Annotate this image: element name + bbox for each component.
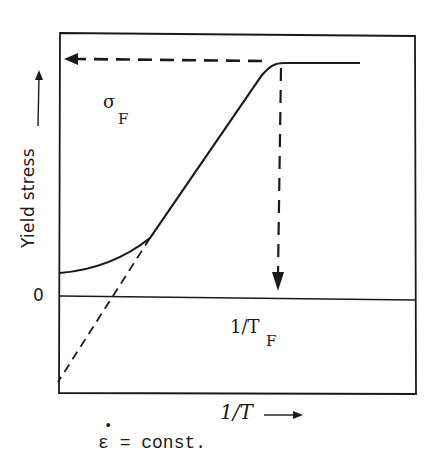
- strain-rate-label: ε = const.: [98, 433, 206, 453]
- tf-arrow: [272, 68, 284, 291]
- strain-rate-dot: •: [104, 418, 112, 434]
- sigma-f-arrow: [64, 53, 262, 65]
- plot-frame: [59, 33, 416, 394]
- zero-tick-label: 0: [33, 285, 44, 305]
- yield-stress-diagram: [0, 0, 433, 475]
- strain-rate-symbol: ε: [98, 433, 109, 453]
- sigma-f-subscript: F: [118, 110, 128, 128]
- tf-subscript: F: [266, 332, 276, 350]
- x-axis-arrow-icon: [264, 411, 303, 419]
- x-axis-label: 1/T: [220, 400, 253, 424]
- tf-label: 1/T: [230, 316, 260, 337]
- sigma-f-symbol: σ: [103, 91, 115, 112]
- zero-line: [60, 296, 415, 300]
- y-axis-arrow-icon: [35, 70, 43, 126]
- y-axis-label: Yield stress: [18, 148, 38, 248]
- extrapolation-dashed-line: [58, 238, 150, 382]
- strain-rate-text: = const.: [120, 433, 206, 453]
